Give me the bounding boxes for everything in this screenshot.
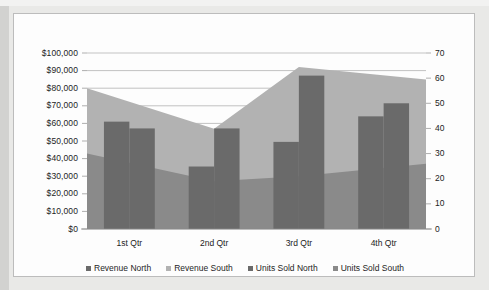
legend-swatch-icon xyxy=(333,266,338,271)
chart-object-frame[interactable]: $0$10,000$20,000$30,000$40,000$50,000$60… xyxy=(13,13,475,277)
left-axis-tick-label: $20,000 xyxy=(14,188,78,198)
left-axis-tick-label: $30,000 xyxy=(14,171,78,181)
legend-item[interactable]: Units Sold South xyxy=(333,263,404,273)
left-axis-tick-label: $0 xyxy=(14,224,78,234)
bar-revenue-north[interactable] xyxy=(104,122,129,229)
left-axis-tick-label: $70,000 xyxy=(14,100,78,110)
left-axis-tick-label: $10,000 xyxy=(14,206,78,216)
legend-swatch-icon xyxy=(166,266,171,271)
left-axis-tick-label: $40,000 xyxy=(14,153,78,163)
bar-units-sold-north[interactable] xyxy=(299,76,324,229)
page-top-edge-highlight xyxy=(0,0,489,6)
legend-item[interactable]: Revenue South xyxy=(166,263,233,273)
bar-units-sold-north[interactable] xyxy=(214,128,239,229)
legend-label: Units Sold South xyxy=(341,263,404,273)
legend-label: Revenue South xyxy=(174,263,233,273)
legend-item[interactable]: Units Sold North xyxy=(248,263,318,273)
legend-swatch-icon xyxy=(86,266,91,271)
bar-revenue-north[interactable] xyxy=(358,116,383,229)
chart-plot-stage: $0$10,000$20,000$30,000$40,000$50,000$60… xyxy=(14,14,474,276)
left-axis-tick-label: $60,000 xyxy=(14,118,78,128)
legend-label: Units Sold North xyxy=(256,263,318,273)
right-axis-tick-label: 10 xyxy=(435,198,445,208)
right-axis-tick-label: 40 xyxy=(435,123,445,133)
category-axis-label: 3rd Qtr xyxy=(257,238,342,248)
right-axis-tick-label: 20 xyxy=(435,173,445,183)
bar-revenue-north[interactable] xyxy=(189,167,214,229)
right-axis-tick-label: 60 xyxy=(435,73,445,83)
right-axis-tick-label: 0 xyxy=(435,224,440,234)
page-left-edge-shadow xyxy=(0,0,9,290)
category-axis-label: 1st Qtr xyxy=(87,238,172,248)
legend-swatch-icon xyxy=(248,266,253,271)
left-axis-tick-label: $80,000 xyxy=(14,83,78,93)
legend-label: Revenue North xyxy=(94,263,151,273)
left-axis-tick-label: $50,000 xyxy=(14,136,78,146)
right-axis-tick-label: 50 xyxy=(435,98,445,108)
category-axis-label: 2nd Qtr xyxy=(172,238,257,248)
chart-canvas xyxy=(14,14,474,276)
legend-item[interactable]: Revenue North xyxy=(86,263,151,273)
left-axis-tick-label: $100,000 xyxy=(14,48,78,58)
right-axis-tick-label: 30 xyxy=(435,148,445,158)
category-axis-label: 4th Qtr xyxy=(341,238,426,248)
right-axis-tick-label: 70 xyxy=(435,48,445,58)
bar-units-sold-north[interactable] xyxy=(129,128,154,229)
left-axis-tick-label: $90,000 xyxy=(14,65,78,75)
chart-legend[interactable]: Revenue NorthRevenue SouthUnits Sold Nor… xyxy=(14,263,476,273)
bar-revenue-north[interactable] xyxy=(273,142,298,229)
bar-units-sold-north[interactable] xyxy=(384,103,409,229)
